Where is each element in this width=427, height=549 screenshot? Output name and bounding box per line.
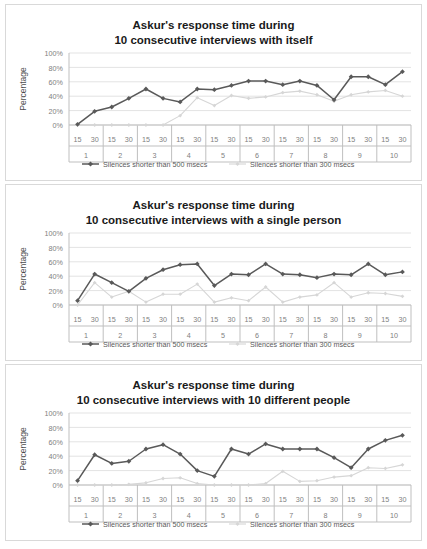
x-axis-group-label: 7 (289, 331, 293, 340)
x-axis: 1530153015301530153015301530153015301530… (69, 125, 411, 162)
data-point-marker (401, 463, 405, 467)
y-axis-tick-label: 60% (49, 258, 64, 267)
x-axis-group-label: 4 (187, 331, 191, 340)
x-axis-subtick-label: 30 (227, 495, 235, 504)
data-point-marker (76, 483, 80, 487)
data-point-marker (383, 89, 387, 93)
x-axis-subtick-label: 15 (108, 495, 116, 504)
x-axis-subtick-label: 30 (364, 315, 372, 324)
y-axis-tick-label: 0% (53, 301, 64, 310)
series-500-msecs (75, 69, 405, 126)
x-axis-group-label: 6 (255, 511, 259, 520)
legend-marker (236, 162, 240, 166)
x-axis-group-label: 6 (255, 151, 259, 160)
x-axis-group-label: 9 (358, 151, 362, 160)
y-axis-tick-label: 20% (49, 467, 64, 476)
series-500-msecs (75, 262, 405, 304)
legend-label: Silences shorter than 500 msecs (103, 340, 208, 349)
data-point-marker (230, 296, 234, 300)
y-axis-title: Percentage (18, 427, 28, 471)
y-axis-title: Percentage (18, 67, 28, 111)
data-point-marker (144, 123, 148, 127)
legend-label: Silences shorter than 300 msecs (250, 520, 355, 529)
y-axis-tick-label: 60% (49, 438, 64, 447)
x-axis-subtick-label: 15 (381, 135, 389, 144)
x-axis-group-label: 3 (153, 511, 157, 520)
x-axis-subtick-label: 30 (159, 135, 167, 144)
x-axis: 1530153015301530153015301530153015301530… (69, 485, 411, 522)
chart-1: Askur's response time during10 consecuti… (6, 5, 421, 180)
legend-marker (236, 522, 240, 526)
y-axis-tick-label: 60% (49, 78, 64, 87)
data-point-marker (178, 262, 183, 267)
data-point-marker (366, 74, 371, 79)
x-axis-group-label: 1 (84, 331, 88, 340)
y-axis-tick-label: 40% (49, 272, 64, 281)
chart-title-line2: 10 consecutive interviews with itself (114, 34, 312, 46)
x-axis-subtick-label: 15 (381, 495, 389, 504)
x-axis-subtick-label: 30 (91, 495, 99, 504)
data-point-marker (315, 479, 319, 483)
data-point-marker (263, 79, 268, 84)
data-point-marker (349, 474, 353, 478)
y-axis-title: Percentage (18, 247, 28, 291)
x-axis-subtick-label: 30 (330, 315, 338, 324)
figure-page: Askur's response time during10 consecuti… (0, 0, 427, 549)
x-axis-group-label: 9 (358, 331, 362, 340)
data-point-marker (332, 475, 336, 479)
x-axis-subtick-label: 15 (313, 495, 321, 504)
series-line (78, 283, 403, 305)
x-axis-group-label: 4 (187, 511, 191, 520)
series-line (78, 90, 403, 125)
data-point-marker (229, 83, 234, 88)
x-axis-group-label: 5 (221, 151, 225, 160)
chart-2: Askur's response time during10 consecuti… (6, 185, 421, 360)
x-axis-subtick-label: 15 (108, 135, 116, 144)
data-point-marker (127, 482, 131, 486)
legend-label: Silences shorter than 300 msecs (250, 340, 355, 349)
data-point-marker (246, 79, 251, 84)
x-axis-subtick-label: 15 (347, 495, 355, 504)
x-axis-subtick-label: 30 (193, 495, 201, 504)
y-axis-tick-label: 80% (49, 64, 64, 73)
chart-3: Askur's response time during10 consecuti… (6, 365, 421, 540)
data-point-marker (93, 123, 97, 127)
series-500-msecs (75, 433, 405, 483)
x-axis-subtick-label: 30 (125, 135, 133, 144)
y-axis-tick-label: 20% (49, 107, 64, 116)
data-point-marker (366, 466, 370, 470)
legend: Silences shorter than 500 msecsSilences … (82, 160, 355, 169)
x-axis-group-label: 6 (255, 331, 259, 340)
x-axis-subtick-label: 15 (210, 495, 218, 504)
y-axis-tick-label: 100% (45, 229, 64, 238)
x-axis-subtick-label: 15 (347, 315, 355, 324)
legend-label: Silences shorter than 500 msecs (103, 520, 208, 529)
data-point-marker (161, 477, 165, 481)
x-axis-subtick-label: 30 (296, 315, 304, 324)
series-line (78, 465, 403, 485)
x-axis-subtick-label: 15 (142, 315, 150, 324)
data-point-marker (366, 291, 370, 295)
x-axis-subtick-label: 15 (74, 135, 82, 144)
plot-area: 0%20%40%60%80%100% (45, 229, 411, 310)
data-point-marker (161, 292, 165, 296)
chart-title-line1: Askur's response time during (133, 19, 295, 31)
x-axis-group-label: 4 (187, 151, 191, 160)
legend-marker (236, 342, 240, 346)
data-point-marker (297, 79, 302, 84)
x-axis: 1530153015301530153015301530153015301530… (69, 305, 411, 342)
data-point-marker (212, 483, 216, 487)
x-axis-subtick-label: 15 (176, 315, 184, 324)
data-point-marker (247, 96, 251, 100)
x-axis-subtick-label: 30 (125, 315, 133, 324)
x-axis-subtick-label: 15 (279, 315, 287, 324)
x-axis-subtick-label: 30 (125, 495, 133, 504)
chart-title-line2: 10 consecutive interviews with a single … (86, 214, 342, 226)
x-axis-subtick-label: 15 (176, 495, 184, 504)
x-axis-subtick-label: 30 (364, 135, 372, 144)
x-axis-group-label: 1 (84, 151, 88, 160)
x-axis-subtick-label: 30 (296, 135, 304, 144)
plot-area: 0%20%40%60%80%100% (45, 409, 411, 490)
y-axis-tick-label: 40% (49, 452, 64, 461)
x-axis-group-label: 8 (324, 511, 328, 520)
